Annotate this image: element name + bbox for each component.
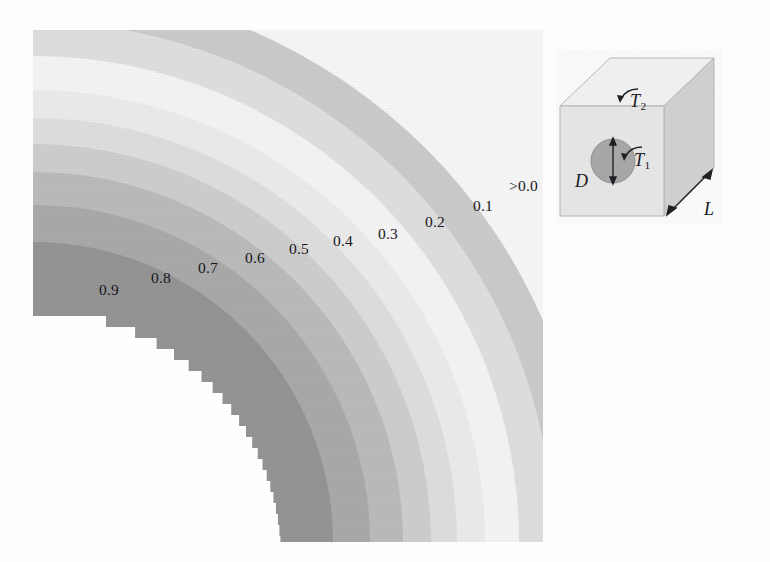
contour-label-0-5: 0.5 bbox=[289, 241, 309, 257]
contour-label-0-6: 0.6 bbox=[245, 250, 265, 266]
contour-label-0-7: 0.7 bbox=[198, 260, 218, 276]
label-l: L bbox=[704, 200, 714, 218]
contour-label-0-1: 0.1 bbox=[473, 198, 493, 214]
contour-label-0-9: 0.9 bbox=[99, 282, 119, 298]
label-d: D bbox=[575, 172, 588, 190]
geometry-schematic: T2 T1 D L bbox=[556, 48, 762, 248]
label-t2: T2 bbox=[630, 92, 646, 112]
solid-block-drawing bbox=[556, 48, 762, 248]
contour-label-0-8: 0.8 bbox=[151, 270, 171, 286]
figure-root: 0.9 0.8 0.7 0.6 0.5 0.4 0.3 0.2 0.1 >0.0 bbox=[0, 0, 770, 562]
contour-plot: 0.9 0.8 0.7 0.6 0.5 0.4 0.3 0.2 0.1 >0.0 bbox=[33, 30, 543, 542]
contour-label-0-2: 0.2 bbox=[425, 214, 445, 230]
contour-label-0-4: 0.4 bbox=[333, 233, 353, 249]
label-t1: T1 bbox=[634, 151, 650, 171]
contour-label-gt-0: >0.0 bbox=[509, 178, 538, 194]
contour-label-0-3: 0.3 bbox=[378, 226, 398, 242]
